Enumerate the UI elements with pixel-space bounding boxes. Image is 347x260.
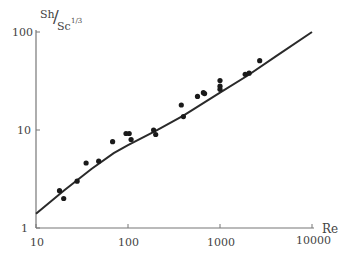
data-point [179,102,184,107]
data-point [217,78,222,83]
y-tick-label-10: 10 [17,124,31,137]
data-point [181,114,186,119]
ticks [36,32,312,228]
chart [0,0,347,260]
data-point [61,196,66,201]
x-tick-label-100: 100 [118,236,139,249]
x-tick-label-1000: 1000 [207,236,235,249]
data-point [110,139,115,144]
data-point [129,137,134,142]
data-point [96,159,101,164]
y-tick-label-100: 100 [12,26,33,39]
data-point [57,188,62,193]
data-point [247,71,252,76]
y-axis-label: Sh / Sc 1/3 [40,8,80,32]
data-point [84,160,89,165]
y-axis-label-denominator: Sc [57,20,71,33]
data-point [217,87,222,92]
data-point [195,94,200,99]
y-axis-label-exponent: 1/3 [71,17,82,25]
x-axis-label: Re [322,222,338,236]
y-tick-label-1: 1 [21,222,28,235]
data-point [75,179,80,184]
data-point [202,91,207,96]
data-point [151,127,156,132]
data-point [257,58,262,63]
data-point [153,132,158,137]
data-point [127,131,132,136]
correlation-line [36,32,312,214]
x-tick-label-10: 10 [30,236,44,249]
